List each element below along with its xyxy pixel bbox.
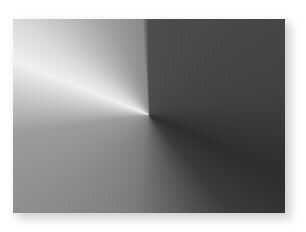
image-canvas (0, 0, 306, 232)
conic-gradient-metal-panel (13, 19, 285, 213)
